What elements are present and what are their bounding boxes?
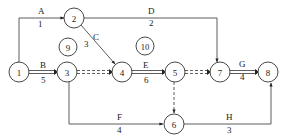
activity-G-label: G xyxy=(239,59,246,69)
activity-B-arrow: B 5 xyxy=(29,60,58,85)
node-1: 1 xyxy=(9,62,29,82)
dummy-5-7-arrow xyxy=(185,69,211,75)
svg-text:9: 9 xyxy=(66,43,71,53)
node-5: 5 xyxy=(165,62,185,82)
svg-text:6: 6 xyxy=(172,120,177,130)
activity-E-arrow: E 6 xyxy=(132,60,166,85)
network-diagram: A 1 D 2 C 3 B 5 E 6 xyxy=(0,0,288,136)
node-9: 9 xyxy=(59,38,77,56)
svg-text:5: 5 xyxy=(173,68,178,78)
activity-G-duration: 4 xyxy=(240,72,245,82)
dummy-3-4-arrow xyxy=(77,69,113,75)
svg-text:10: 10 xyxy=(141,42,150,52)
activity-D-label: D xyxy=(148,6,155,16)
activity-F-arrow: F 4 xyxy=(69,82,163,135)
svg-text:1: 1 xyxy=(17,68,22,78)
activity-B-label: B xyxy=(40,60,46,70)
node-8: 8 xyxy=(258,62,278,82)
activity-H-label: H xyxy=(226,112,233,122)
node-6: 6 xyxy=(164,114,184,134)
node-3: 3 xyxy=(57,62,77,82)
activity-A-label: A xyxy=(38,6,45,16)
activity-H-arrow: H 3 xyxy=(184,83,271,135)
activity-H-duration: 3 xyxy=(227,125,232,135)
svg-text:3: 3 xyxy=(65,68,70,78)
activity-B-duration: 5 xyxy=(41,75,46,85)
node-2: 2 xyxy=(64,8,84,28)
activity-G-arrow: G 4 xyxy=(230,59,259,82)
node-7: 7 xyxy=(210,62,230,82)
activity-C-arrow: C 3 xyxy=(81,25,115,64)
activity-A-duration: 1 xyxy=(38,19,43,29)
activity-D-duration: 2 xyxy=(149,18,154,28)
activity-C-duration: 3 xyxy=(84,39,89,49)
node-10: 10 xyxy=(136,37,154,55)
svg-text:8: 8 xyxy=(266,68,271,78)
svg-text:4: 4 xyxy=(120,68,125,78)
activity-A-arrow: A 1 xyxy=(19,6,64,63)
activity-E-label: E xyxy=(143,60,149,70)
svg-text:2: 2 xyxy=(72,14,77,24)
activity-C-label: C xyxy=(93,32,99,42)
activity-F-label: F xyxy=(117,112,122,122)
activity-E-duration: 6 xyxy=(144,75,149,85)
activity-F-duration: 4 xyxy=(117,125,122,135)
svg-text:7: 7 xyxy=(218,68,223,78)
node-4: 4 xyxy=(112,62,132,82)
